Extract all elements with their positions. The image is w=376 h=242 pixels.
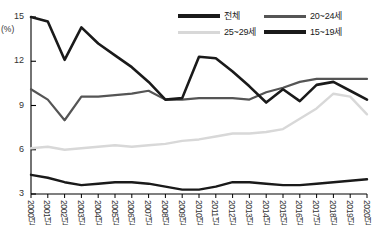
legend-item-age-25-29[interactable]: 25~29세 [178, 28, 264, 37]
x-axis-tick-2006: 2006년 [127, 200, 136, 226]
legend-item-age-15-19[interactable]: 15~19세 [264, 28, 374, 37]
y-axis-tick-6: 6 [2, 145, 24, 154]
x-axis-tick-2014: 2014년 [261, 200, 270, 226]
x-axis-tick-2009: 2009년 [177, 200, 186, 226]
x-axis-tick-2016: 2016년 [295, 200, 304, 226]
legend-swatch-icon [178, 31, 220, 34]
legend-item-total[interactable]: 전체 [178, 12, 264, 21]
legend-label: 25~29세 [224, 28, 256, 37]
x-axis-tick-2019: 2019년 [345, 200, 354, 226]
x-axis-tick-2013: 2013년 [244, 200, 253, 226]
x-axis-tick-2012: 2012년 [228, 200, 237, 226]
legend-label: 전체 [224, 12, 240, 21]
y-axis-tick-9: 9 [2, 101, 24, 110]
x-axis-tick-2000: 2000년 [26, 200, 35, 226]
x-axis-tick-2018: 2018년 [328, 200, 337, 226]
chart-container: (%) 1512963 2000년2001년2002년2003년2004년200… [0, 0, 376, 242]
legend-swatch-icon [264, 15, 306, 18]
legend-swatch-icon [178, 14, 220, 18]
y-axis-tick-12: 12 [2, 56, 24, 65]
chart-series [31, 17, 367, 190]
chart-legend: 전체 20~24세 25~29세 15~19세 [178, 8, 374, 40]
x-axis-tick-2011: 2011년 [211, 200, 220, 225]
x-axis-tick-2017: 2017년 [312, 200, 321, 226]
legend-label: 20~24세 [310, 12, 342, 21]
x-axis-tick-2008: 2008년 [160, 200, 169, 226]
x-axis-tick-2005: 2005년 [110, 200, 119, 226]
x-axis-tick-2002: 2002년 [60, 200, 69, 226]
y-axis-tick-15: 15 [2, 12, 24, 21]
x-axis-tick-2001: 2001년 [43, 200, 52, 226]
x-axis-tick-2007: 2007년 [144, 200, 153, 226]
x-axis-tick-2010: 2010년 [194, 200, 203, 226]
legend-label: 15~19세 [310, 28, 342, 37]
y-axis-unit-label: (%) [1, 25, 14, 34]
y-axis-tick-3: 3 [2, 189, 24, 198]
x-axis-tick-2020: 2020년 [362, 200, 371, 226]
x-axis-tick-2003: 2003년 [76, 200, 85, 226]
legend-item-age-20-24[interactable]: 20~24세 [264, 12, 374, 21]
x-axis-tick-2004: 2004년 [93, 200, 102, 226]
legend-swatch-icon [264, 30, 306, 34]
x-axis-tick-2015: 2015년 [278, 200, 287, 226]
